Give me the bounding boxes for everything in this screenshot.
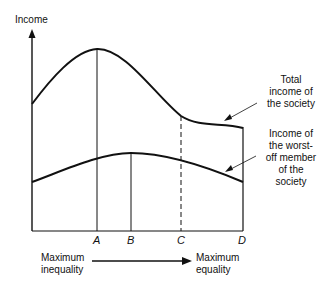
tick-c: C (177, 234, 185, 246)
total-pointer-line (228, 103, 257, 119)
y-axis-label: Income (15, 14, 48, 26)
tick-b: B (127, 234, 134, 246)
worst-pointer-arrow-icon (225, 165, 233, 172)
y-axis-arrow-icon (29, 29, 36, 38)
worst-off-income-curve (32, 153, 243, 182)
worst-off-income-label: Income of the worst- off member of the s… (258, 128, 324, 188)
max-inequality-label: Maximum inequality (41, 252, 84, 276)
max-equality-label: Maximum equality (196, 252, 239, 276)
total-income-curve (32, 49, 243, 128)
equality-direction-arrow-icon (182, 257, 192, 265)
tick-d: D (238, 234, 246, 246)
tick-a: A (93, 234, 100, 246)
total-pointer-arrow-icon (224, 114, 232, 121)
total-income-label: Total income of the society (258, 74, 324, 110)
